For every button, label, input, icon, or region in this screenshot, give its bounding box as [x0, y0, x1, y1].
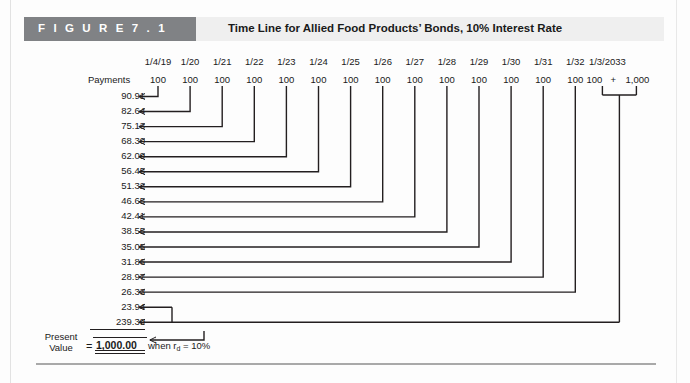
interest-rate-note: when rd = 10%	[148, 340, 210, 352]
timeline-arrow-wires	[0, 0, 690, 383]
amount-underline-lower	[95, 353, 145, 354]
last-value-underline	[90, 329, 145, 330]
present-value-label-line1: Present	[45, 331, 78, 342]
present-value-label: Present Value	[40, 332, 82, 353]
present-value-label-line2: Value	[49, 342, 73, 353]
equals-sign: =	[86, 340, 92, 352]
figure-page: F I G U R E 7 . 1 Time Line for Allied F…	[0, 0, 690, 383]
page-bottom-rule	[36, 363, 656, 365]
summary-fraction-rule	[93, 337, 147, 338]
interest-rate-note-pre: when r	[148, 340, 177, 351]
amount-underline-upper	[95, 350, 145, 351]
interest-rate-note-post: = 10%	[180, 340, 210, 351]
